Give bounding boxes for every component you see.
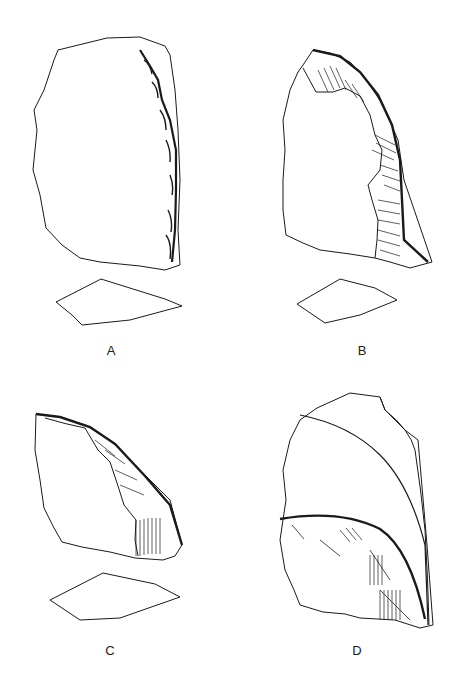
panel-label-b: B (358, 343, 367, 358)
artifact-drawings (0, 0, 461, 690)
artifact-a-section (56, 279, 182, 325)
panel-label-d: D (352, 643, 361, 658)
artifact-b-section (297, 279, 397, 323)
artifact-c-plan (35, 414, 182, 560)
artifact-b-plan (283, 50, 432, 268)
panel-label-a: A (107, 343, 116, 358)
panel-label-c: C (105, 643, 114, 658)
artifact-figure: A B C D (0, 0, 461, 690)
artifact-d-plan (280, 393, 433, 628)
artifact-c-section (50, 573, 180, 620)
artifact-a-plan (33, 37, 180, 270)
